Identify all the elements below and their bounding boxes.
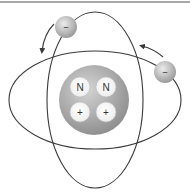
electron-label: – xyxy=(162,67,167,77)
nucleus-body xyxy=(59,65,129,135)
neutron-label: N xyxy=(102,82,109,93)
proton: + xyxy=(70,102,90,122)
neutron-label: N xyxy=(76,82,83,93)
proton-label: + xyxy=(77,107,83,118)
proton: + xyxy=(96,102,116,122)
atom-diagram: N N + + – – xyxy=(0,0,190,196)
nucleus: N N + + xyxy=(59,65,129,135)
arrow-icon xyxy=(42,24,54,51)
neutron: N xyxy=(70,77,90,97)
neutron: N xyxy=(96,77,116,97)
electron: – xyxy=(55,16,77,38)
electron: – xyxy=(154,61,176,83)
arrow-icon xyxy=(142,46,163,57)
electron-label: – xyxy=(63,22,68,32)
proton-label: + xyxy=(103,107,109,118)
